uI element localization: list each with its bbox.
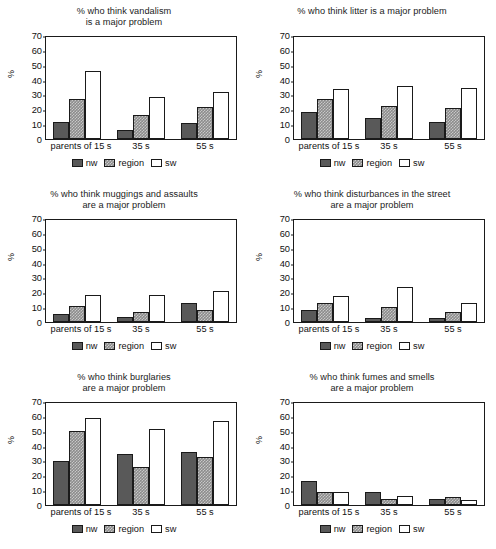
legend-label: region	[118, 341, 144, 351]
bar-sw	[461, 303, 477, 322]
bar-sw	[149, 97, 165, 139]
chart-legend: nwregionsw	[248, 524, 496, 534]
bar-region	[381, 307, 397, 322]
bar-region	[133, 467, 149, 505]
legend-swatch-sw	[151, 342, 162, 350]
bar-nw	[53, 314, 69, 322]
bar-nw	[301, 481, 317, 505]
chart-panel: % who think fumes and smellsare a major …	[248, 366, 496, 549]
legend-item-region: region	[104, 158, 144, 168]
plot-area: %010203040506070parents of 15 s35 s55 sn…	[0, 0, 248, 183]
bar-region	[445, 312, 461, 322]
legend-swatch-region	[352, 342, 363, 350]
bar-sw	[333, 296, 349, 322]
legend-item-sw: sw	[151, 524, 176, 534]
legend-label: nw	[86, 341, 98, 351]
figure-sheet: % who think vandalismis a major problem%…	[0, 0, 496, 549]
bar-layer	[46, 403, 236, 505]
x-axis-tick-label: parents of 15 s	[51, 142, 112, 151]
x-axis-labels: parents of 15 s35 s55 s	[293, 508, 485, 522]
legend-item-nw: nw	[320, 158, 346, 168]
x-axis-tick-label: parents of 15 s	[51, 508, 112, 517]
bar-sw	[85, 295, 101, 322]
bar-nw	[53, 461, 69, 505]
plot-frame: 010203040506070	[293, 219, 485, 323]
legend-swatch-region	[352, 525, 363, 533]
bar-layer	[46, 220, 236, 322]
x-axis-tick-label: 55 s	[196, 508, 213, 517]
legend-label: sw	[413, 524, 424, 534]
chart-grid: % who think vandalismis a major problem%…	[0, 0, 496, 549]
bar-sw	[149, 429, 165, 505]
legend-item-sw: sw	[399, 158, 424, 168]
legend-swatch-sw	[151, 159, 162, 167]
bar-nw	[117, 317, 133, 322]
legend-label: region	[366, 524, 392, 534]
legend-label: nw	[86, 158, 98, 168]
chart-panel: % who think muggings and assaultsare a m…	[0, 183, 248, 366]
bar-nw	[181, 303, 197, 322]
legend-label: region	[366, 341, 392, 351]
bar-layer	[46, 37, 236, 139]
bar-region	[445, 497, 461, 505]
plot-frame: 010203040506070	[293, 402, 485, 506]
x-axis-labels: parents of 15 s35 s55 s	[45, 508, 237, 522]
legend-swatch-region	[104, 159, 115, 167]
bar-region	[317, 99, 333, 139]
bar-sw	[149, 295, 165, 322]
legend-label: sw	[413, 158, 424, 168]
legend-label: sw	[165, 158, 176, 168]
bar-sw	[213, 291, 229, 322]
bar-sw	[461, 88, 477, 139]
bar-sw	[213, 421, 229, 505]
x-axis-tick-label: 55 s	[444, 325, 461, 334]
chart-legend: nwregionsw	[0, 524, 248, 534]
legend-item-region: region	[104, 524, 144, 534]
legend-swatch-sw	[399, 342, 410, 350]
plot-area: %010203040506070parents of 15 s35 s55 sn…	[248, 366, 496, 549]
bar-nw	[301, 310, 317, 322]
bar-sw	[85, 71, 101, 139]
plot-frame: 010203040506070	[45, 36, 237, 140]
legend-swatch-nw	[320, 525, 331, 533]
legend-swatch-sw	[399, 159, 410, 167]
chart-panel: % who think vandalismis a major problem%…	[0, 0, 248, 183]
bar-region	[133, 115, 149, 139]
legend-swatch-region	[104, 342, 115, 350]
bar-sw	[397, 287, 413, 322]
legend-swatch-nw	[72, 159, 83, 167]
bar-region	[381, 106, 397, 139]
bar-nw	[365, 492, 381, 505]
y-axis-label: %	[6, 70, 16, 78]
bar-region	[197, 107, 213, 139]
chart-legend: nwregionsw	[0, 341, 248, 351]
bar-nw	[365, 118, 381, 139]
chart-legend: nwregionsw	[248, 158, 496, 168]
bar-region	[69, 99, 85, 139]
chart-panel: % who think burglariesare a major proble…	[0, 366, 248, 549]
bar-region	[445, 108, 461, 139]
bar-region	[317, 303, 333, 322]
legend-item-nw: nw	[72, 341, 98, 351]
bar-nw	[117, 454, 133, 505]
y-axis-label: %	[6, 436, 16, 444]
legend-swatch-nw	[320, 159, 331, 167]
chart-panel: % who think litter is a major problem%01…	[248, 0, 496, 183]
legend-item-region: region	[352, 158, 392, 168]
y-axis-label: %	[254, 70, 264, 78]
legend-item-sw: sw	[399, 341, 424, 351]
bar-nw	[365, 318, 381, 322]
x-axis-labels: parents of 15 s35 s55 s	[45, 325, 237, 339]
legend-label: sw	[413, 341, 424, 351]
legend-item-region: region	[352, 341, 392, 351]
bar-nw	[429, 499, 445, 505]
bar-nw	[181, 123, 197, 139]
x-axis-tick-label: 55 s	[196, 142, 213, 151]
x-axis-tick-label: 35 s	[380, 325, 397, 334]
x-axis-tick-label: 35 s	[132, 325, 149, 334]
legend-item-region: region	[352, 524, 392, 534]
legend-label: nw	[334, 158, 346, 168]
bar-sw	[461, 500, 477, 505]
legend-item-nw: nw	[320, 341, 346, 351]
bar-nw	[181, 452, 197, 505]
